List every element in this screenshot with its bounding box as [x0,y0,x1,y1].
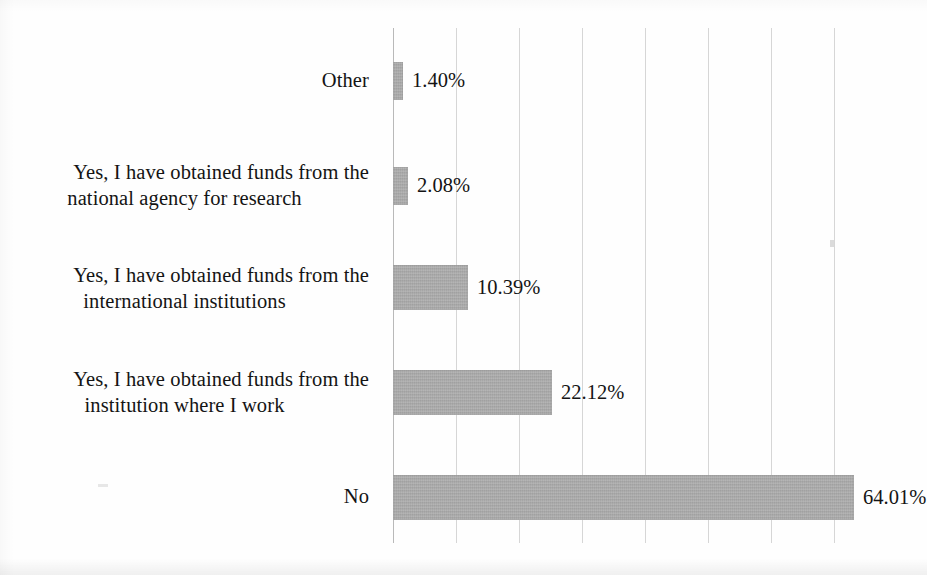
category-label-line: Yes, I have obtained funds from the [0,159,369,185]
category-label-line: national agency for research [0,185,369,211]
category-label-line: No [0,483,369,509]
category-label-line: Yes, I have obtained funds from the [0,366,369,392]
category-label-line: Yes, I have obtained funds from the [0,262,369,288]
category-label-national-agency: Yes, I have obtained funds from the nati… [0,159,381,211]
scan-speck [830,240,834,247]
data-label-other: 1.40% [412,67,465,93]
category-label-own-institution: Yes, I have obtained funds from the inst… [0,366,381,418]
data-label-international: 10.39% [477,274,540,300]
chart-page: Other Yes, I have obtained funds from th… [0,0,927,575]
scan-edge-shadow [0,559,927,575]
data-label-no: 64.01% [863,484,926,510]
category-label-line: international institutions [0,288,369,314]
category-label-line: institution where I work [0,392,369,418]
category-row-no: No [0,483,927,509]
data-label-own-institution: 22.12% [561,379,624,405]
category-label-no: No [0,483,381,509]
category-row-own-institution: Yes, I have obtained funds from the inst… [0,366,927,418]
category-label-international: Yes, I have obtained funds from the inte… [0,262,381,314]
scan-speck [98,484,108,487]
data-label-national-agency: 2.08% [417,172,470,198]
category-row-international: Yes, I have obtained funds from the inte… [0,262,927,314]
category-label-line: Other [0,67,369,93]
category-label-other: Other [0,67,381,93]
